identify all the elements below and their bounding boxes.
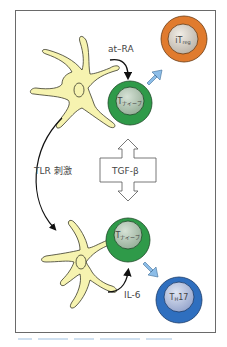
tgf-beta-label: TGF-β bbox=[112, 166, 139, 176]
differentiation-arrow-up-icon bbox=[147, 70, 162, 85]
dendritic-cell-top bbox=[30, 36, 119, 128]
dendritic-cell-bottom bbox=[42, 220, 117, 308]
itreg-label: iTreg bbox=[175, 36, 190, 45]
naive-t-top-label: Tナイーブ bbox=[118, 97, 143, 106]
th17-label: TH17 bbox=[170, 293, 189, 302]
tlr-stimulation-label: TLR 刺激 bbox=[34, 164, 72, 177]
differentiation-arrow-down-icon bbox=[143, 262, 158, 277]
il6-label: IL-6 bbox=[124, 290, 140, 300]
at-ra-label: at–RA bbox=[108, 44, 134, 54]
caption-fragment bbox=[18, 338, 213, 344]
naive-t-bottom-label: Tナイーブ bbox=[116, 231, 141, 240]
naive-t-cell-bottom bbox=[106, 218, 150, 262]
